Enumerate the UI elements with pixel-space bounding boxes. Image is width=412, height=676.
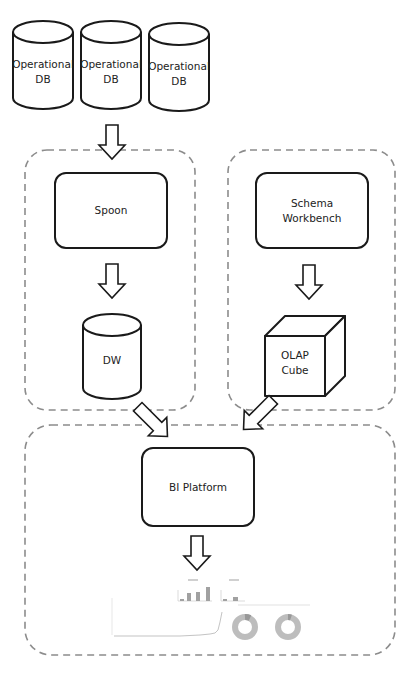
arrow-down-icon (184, 536, 210, 570)
arrow-diagonal-icon (234, 391, 282, 439)
arrow-down-icon (296, 265, 322, 299)
schema-workbench-label: Schema Workbench (255, 172, 369, 249)
diagram-canvas (0, 0, 412, 676)
arrow-down-icon (99, 264, 125, 298)
operational-db-2-label: Operational DB (78, 52, 144, 92)
spoon-label: Spoon (54, 172, 168, 249)
bi-platform-label: BI Platform (141, 447, 255, 527)
operational-db-3-label: Operational DB (146, 54, 212, 94)
operational-db-1-label: Operational DB (10, 52, 76, 92)
olap-cube-label: OLAP Cube (265, 340, 325, 386)
dashboard-thumbnail (112, 579, 310, 637)
dw-label: DW (83, 345, 141, 375)
arrow-diagonal-icon (129, 398, 177, 446)
arrow-down-icon (99, 125, 125, 159)
